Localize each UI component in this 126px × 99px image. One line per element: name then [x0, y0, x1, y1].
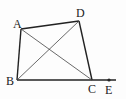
label-c: C [88, 82, 96, 96]
point-e-dot [107, 78, 110, 81]
side-ab [17, 29, 21, 80]
label-b: B [6, 74, 14, 88]
label-a: A [13, 17, 22, 31]
geometry-diagram: A B C D E [0, 0, 126, 99]
label-e: E [105, 83, 112, 97]
side-ad [21, 21, 79, 29]
diagonal-ac [21, 29, 92, 80]
diagram-svg: A B C D E [0, 0, 126, 99]
diagonal-bd [17, 21, 79, 80]
label-d: D [76, 6, 85, 20]
side-dc [79, 21, 92, 80]
